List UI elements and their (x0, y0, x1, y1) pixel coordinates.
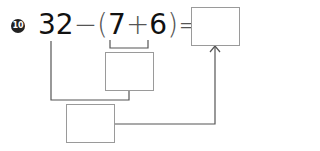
bracket-line (110, 40, 148, 48)
intermediate-box[interactable] (105, 52, 154, 91)
working-box[interactable] (66, 104, 115, 143)
answer-box[interactable] (191, 7, 240, 46)
